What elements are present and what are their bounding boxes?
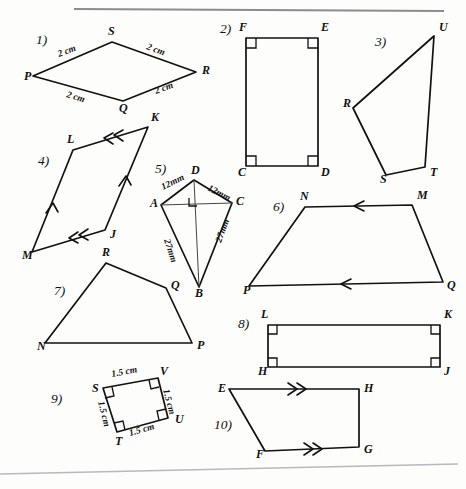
figure-7-vertex-label-P: P: [197, 338, 205, 352]
bottom-scan-line: [0, 464, 458, 474]
figure-4-number: 4): [38, 153, 50, 168]
figure-8-vertex-label-L: L: [260, 307, 268, 321]
figure-8-vertex-label-H: H: [257, 364, 268, 378]
figure-10-vertex-label-H: H: [363, 381, 374, 395]
figure-9-outline: [103, 378, 168, 432]
figure-1-vertex-label-Q: Q: [119, 101, 128, 115]
figure-8-number: 8): [238, 316, 250, 331]
figure-1: 1) P S R Q 2 cm 2 cm 2 cm 2 cm: [24, 24, 210, 115]
figure-5-measure-CB: 27mm: [213, 217, 231, 244]
figure-1-vertex-label-S: S: [108, 24, 115, 38]
figure-5-vertex-label-C: C: [236, 194, 245, 208]
figure-2-right-angle-C: [246, 156, 256, 166]
figure-9-measure-ST: 1.5 cm: [96, 400, 112, 428]
figure-9-measure-TU: 1.5 cm: [128, 421, 156, 438]
figure-4-outline: [32, 127, 148, 252]
figure-5-measure-DC: 12mm: [206, 183, 232, 203]
figure-1-number: 1): [36, 32, 48, 47]
top-scan-line: [74, 9, 444, 11]
figure-1-measure-QR: 2 cm: [152, 80, 174, 96]
figure-4: 4) K L M J: [21, 110, 160, 262]
figure-5-vertex-label-D: D: [190, 163, 200, 177]
figure-10-outline: [229, 389, 359, 451]
worksheet-page: 1) P S R Q 2 cm 2 cm 2 cm 2 cm 2) F E D …: [0, 0, 466, 489]
figure-5-vertex-label-B: B: [194, 286, 203, 300]
figure-9-vertex-label-S: S: [92, 381, 99, 395]
figure-8-right-angle-H: [268, 358, 277, 367]
figure-8-vertex-label-K: K: [443, 307, 453, 321]
figure-5-number: 5): [155, 161, 167, 176]
figure-4-arrow-ML: [46, 203, 58, 213]
figure-2-outline: [246, 38, 318, 166]
figure-8-vertex-label-J: J: [443, 364, 451, 378]
figure-6-number: 6): [273, 199, 285, 214]
figure-9-right-angle-V: [149, 380, 159, 389]
figure-8-right-angle-L: [268, 325, 277, 334]
figure-10: 10) E H G F: [214, 381, 374, 461]
figure-6-vertex-label-Q: Q: [447, 278, 456, 292]
worksheet-canvas: 1) P S R Q 2 cm 2 cm 2 cm 2 cm 2) F E D …: [0, 0, 466, 489]
figure-3: 3) U T S R: [342, 20, 449, 186]
figure-7-number: 7): [54, 283, 66, 298]
figure-2-vertex-label-D: D: [320, 165, 330, 179]
figure-4-vertex-label-J: J: [109, 227, 117, 241]
figure-2-right-angle-D: [308, 156, 318, 166]
figure-7-outline: [45, 263, 192, 343]
figure-9-vertex-label-V: V: [160, 364, 169, 378]
figure-9-vertex-label-T: T: [115, 434, 123, 448]
figure-2-number: 2): [220, 21, 232, 36]
figure-6-vertex-label-N: N: [299, 189, 310, 203]
figure-9-measure-SV: 1.5 cm: [110, 364, 137, 379]
figure-5-measure-AB: 27mm: [162, 237, 179, 264]
figure-9-number: 9): [51, 391, 63, 406]
figure-7-vertex-label-R: R: [101, 245, 110, 259]
figure-7-vertex-label-Q: Q: [171, 278, 180, 292]
figure-2: 2) F E D C: [220, 20, 330, 179]
figure-5-diagonal-AC: [161, 203, 232, 205]
figure-1-measure-PS: 2 cm: [55, 43, 77, 59]
figure-2-right-angle-F: [246, 38, 256, 48]
figure-3-vertex-label-T: T: [430, 165, 438, 179]
figure-9: 9) S V U T 1.5 cm 1.5 cm 1.5 cm 1.5 cm: [51, 364, 185, 448]
figure-10-vertex-label-E: E: [217, 381, 226, 395]
figure-10-vertex-label-F: F: [255, 447, 264, 461]
figure-1-vertex-label-R: R: [201, 63, 210, 77]
figure-2-vertex-label-C: C: [238, 165, 247, 179]
figure-8-right-angle-K: [431, 325, 440, 334]
figure-3-vertex-label-S: S: [380, 172, 387, 186]
figure-5: 5) D C B A 12mm 12mm 27mm 27mm: [149, 161, 245, 300]
figure-4-vertex-label-L: L: [66, 132, 74, 146]
figure-3-outline: [353, 36, 434, 175]
figure-2-vertex-label-F: F: [238, 20, 247, 34]
figure-8-right-angle-J: [431, 358, 440, 367]
figure-6-vertex-label-M: M: [416, 188, 428, 202]
figure-6: 6) N M Q P: [243, 188, 456, 297]
figure-8: 8) L K J H: [238, 307, 453, 378]
figure-5-vertex-label-A: A: [149, 196, 158, 210]
figure-4-vertex-label-M: M: [21, 248, 33, 262]
figure-9-vertex-label-U: U: [175, 412, 185, 426]
figure-1-measure-PQ: 2 cm: [64, 89, 86, 104]
figure-5-right-angle-center: [189, 198, 197, 206]
figure-7: 7) R Q P N: [36, 245, 205, 353]
figure-3-vertex-label-U: U: [439, 20, 449, 34]
figure-7-vertex-label-N: N: [36, 339, 47, 353]
figure-10-number: 10): [214, 417, 233, 432]
figure-3-vertex-label-R: R: [342, 96, 351, 110]
figure-2-right-angle-E: [308, 38, 318, 48]
figure-1-vertex-label-P: P: [24, 69, 32, 83]
figure-2-vertex-label-E: E: [320, 20, 329, 34]
figure-6-vertex-label-P: P: [243, 283, 251, 297]
figure-3-number: 3): [374, 34, 387, 49]
figure-5-diagonal-DB: [194, 180, 199, 287]
figure-4-vertex-label-K: K: [150, 110, 160, 124]
figure-10-vertex-label-G: G: [364, 442, 373, 456]
figure-8-outline: [268, 325, 440, 367]
figure-6-outline: [249, 205, 443, 286]
